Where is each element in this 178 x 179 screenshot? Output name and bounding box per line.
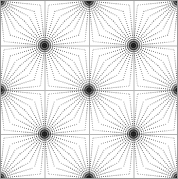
radial-burst-lattice-canvas (0, 0, 178, 179)
figure-root: Radial burst lattice Periodic lattice of… (0, 0, 178, 179)
